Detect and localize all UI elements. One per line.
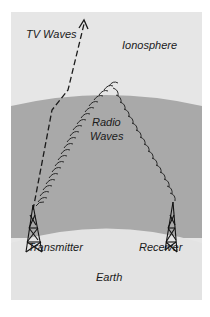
radio-tv-wave-diagram — [0, 0, 210, 317]
radio-waves-label-line1: Radio — [92, 117, 121, 128]
receiver-label: Receiver — [139, 242, 182, 253]
tv-waves-label: TV Waves — [26, 29, 77, 40]
radio-waves-label-line2: Waves — [90, 131, 123, 142]
ionosphere-label: Ionosphere — [122, 40, 177, 51]
transmitter-label: Transmitter — [28, 242, 83, 253]
earth-label: Earth — [96, 272, 122, 283]
